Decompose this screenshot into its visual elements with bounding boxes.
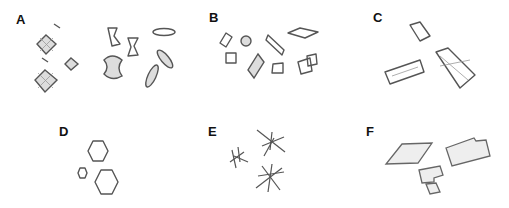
panel-label-f: F (366, 124, 374, 139)
crystal-figure (0, 0, 509, 208)
panel-b-drawings (220, 28, 318, 78)
panel-label-a: A (16, 12, 25, 27)
panel-label-c: C (373, 10, 382, 25)
panel-label-d: D (59, 124, 68, 139)
panel-f-drawings (386, 138, 490, 194)
panel-d-drawings (78, 141, 118, 194)
panel-c-drawings (385, 22, 475, 88)
panel-a-drawings (35, 24, 175, 92)
panel-e-drawings (230, 130, 285, 192)
panel-label-e: E (208, 124, 217, 139)
panel-label-b: B (209, 10, 218, 25)
